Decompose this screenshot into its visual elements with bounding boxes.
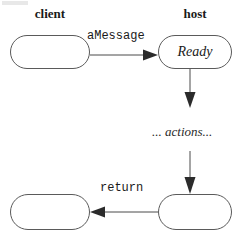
edge-ready-to-actions-arrow [185,69,196,108]
diagram-canvas: client host Ready aMessage return ... ac… [0,0,238,241]
edge-return-arrow [90,207,158,218]
edge-message-arrow [90,50,158,61]
edge-actions-to-host-arrow [185,151,196,194]
edge-layer [0,0,238,241]
